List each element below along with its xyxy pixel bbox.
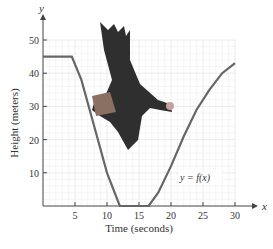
y-tick-label: 30 [29, 101, 39, 112]
y-tick-label: 40 [29, 68, 39, 79]
x-axis-symbol: x [261, 200, 267, 212]
y-axis-symbol: y [38, 2, 44, 14]
y-tick-label: 10 [29, 168, 39, 179]
x-axis-label: Time (seconds) [105, 222, 173, 235]
x-tick-label: 30 [230, 210, 240, 221]
x-tick-label: 5 [73, 210, 78, 221]
x-tick-label: 10 [102, 210, 112, 221]
curve-annotation: y = f(x) [179, 172, 211, 184]
y-tick-label: 20 [29, 135, 39, 146]
y-axis-label: Height (meters) [8, 88, 21, 158]
chart: 510152025301020304050 x y Time (seconds)… [0, 0, 273, 249]
x-tick-label: 15 [134, 210, 144, 221]
y-tick-label: 50 [29, 35, 39, 46]
eagle-icon [92, 22, 174, 150]
x-tick-label: 20 [166, 210, 176, 221]
x-tick-label: 25 [198, 210, 208, 221]
